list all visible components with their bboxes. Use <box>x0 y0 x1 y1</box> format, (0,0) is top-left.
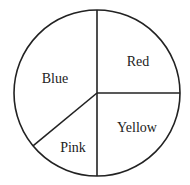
pie-chart: Red Yellow Pink Blue <box>0 0 190 185</box>
slice-label-pink: Pink <box>60 140 86 155</box>
slice-label-blue: Blue <box>42 71 68 86</box>
slice-label-yellow: Yellow <box>117 120 158 135</box>
slice-label-red: Red <box>127 54 150 69</box>
